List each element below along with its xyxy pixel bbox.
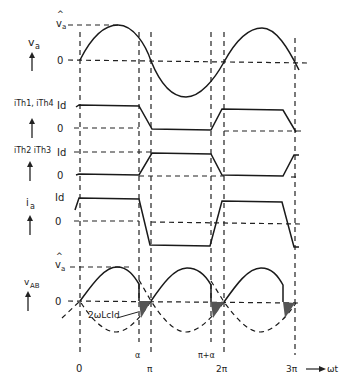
commutation-notch	[139, 301, 295, 318]
va-signal-sub: a	[35, 42, 40, 51]
ith23-id-label: Id	[57, 147, 66, 158]
tick-pi: π	[147, 364, 153, 374]
tick-2pi: 2π	[216, 364, 228, 374]
tick-0: 0	[76, 363, 82, 374]
tick-pi-plus-alpha: π+α	[198, 351, 215, 360]
tick-3pi: 3π	[286, 364, 298, 374]
arrow-right-icon	[319, 366, 326, 372]
row-vab	[62, 267, 300, 332]
ith23-signal-label: iTh2 iTh3	[14, 146, 51, 155]
row-ia	[74, 198, 300, 247]
arrow-up-icon	[27, 215, 33, 221]
arrow-up-icon	[25, 291, 31, 297]
row-va	[68, 25, 308, 97]
x-axis: 0 α π π+α 2π 3π ωt	[76, 351, 339, 374]
vab-signal-sub: AB	[30, 282, 40, 290]
vab-zero-label: 0	[55, 296, 61, 307]
va-zero-label: 0	[57, 55, 63, 66]
arrow-up-icon	[27, 161, 33, 167]
x-axis-label: ωt	[327, 364, 339, 374]
ia-signal-label: i	[26, 197, 29, 208]
commutation-annotation: 2ωLcId	[88, 310, 120, 320]
ith23-zero-label: 0	[57, 170, 63, 181]
vab-peak-sub: a	[61, 265, 65, 273]
row-ith23	[74, 152, 300, 177]
ith14-zero-label: 0	[57, 123, 63, 134]
ia-signal-sub: a	[30, 202, 35, 211]
level-labels: ^ v a 0 Id 0 Id 0 Id 0 ^ v a 0 2ωLcId	[55, 10, 120, 320]
arrow-up-icon	[29, 118, 35, 124]
waveform-diagram: v a iTh1, iTh4 iTh2 iTh3 i a v AB ^ v a …	[0, 0, 348, 387]
ith14-id-label: Id	[57, 100, 66, 111]
ia-zero-label: 0	[55, 216, 61, 227]
arrow-up-icon	[29, 52, 35, 58]
signal-labels: v a iTh1, iTh4 iTh2 iTh3 i a v AB	[14, 36, 54, 311]
tick-alpha: α	[135, 351, 140, 360]
va-peak-sub: a	[62, 23, 66, 31]
row-ith14	[74, 105, 303, 132]
va-signal-label: v	[28, 36, 35, 49]
ia-id-label: Id	[55, 192, 64, 203]
ith14-signal-label: iTh1, iTh4	[14, 99, 54, 108]
vertical-reference-lines	[80, 32, 295, 355]
